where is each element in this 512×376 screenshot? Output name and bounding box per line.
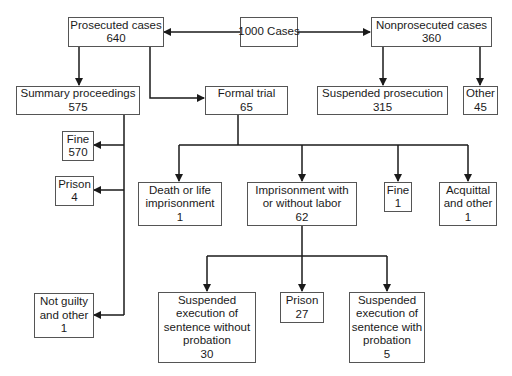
node-death-or-life: Death or life imprisonment 1 <box>138 182 222 226</box>
node-label: Prosecuted cases <box>70 19 161 33</box>
node-label: Other <box>466 87 495 101</box>
node-label: Prison <box>58 178 91 192</box>
node-formal-trial: Formal trial 65 <box>205 86 288 115</box>
node-count: 640 <box>106 32 125 46</box>
node-count: 1 <box>61 322 67 336</box>
node-count: 570 <box>68 146 87 160</box>
node-label: Suspended prosecution <box>322 87 443 101</box>
node-label: Acquittal <box>446 184 490 198</box>
node-formal-fine: Fine 1 <box>384 182 412 212</box>
node-count: 1 <box>465 211 471 225</box>
node-count: 1 <box>177 211 183 225</box>
node-label: probation <box>183 334 231 348</box>
node-label: Imprisonment with <box>255 184 348 198</box>
node-label: probation <box>363 334 411 348</box>
node-label: and other <box>40 309 89 323</box>
node-count: 360 <box>422 32 441 46</box>
node-count: 1 <box>395 197 401 211</box>
node-summary-prison: Prison 4 <box>55 176 94 206</box>
node-label: execution of <box>356 307 418 321</box>
node-label: 1000 Cases <box>238 25 299 39</box>
node-label: or without labor <box>263 197 342 211</box>
node-count: 30 <box>201 348 214 362</box>
node-count: 5 <box>384 348 390 362</box>
node-label: Summary proceedings <box>20 87 135 101</box>
node-label: Not guilty <box>40 295 88 309</box>
node-label: Death or life <box>149 184 211 198</box>
node-count: 62 <box>296 211 309 225</box>
node-count: 575 <box>68 101 87 115</box>
node-summary-proceedings: Summary proceedings 575 <box>16 86 140 115</box>
node-summary-not-guilty: Not guilty and other 1 <box>34 293 94 338</box>
node-suspended-with-probation: Suspended execution of sentence with pro… <box>349 292 425 363</box>
node-suspended-without-probation: Suspended execution of sentence without … <box>158 292 256 363</box>
node-label: Formal trial <box>218 87 276 101</box>
node-prison-27: Prison 27 <box>280 292 324 323</box>
node-suspended-prosecution: Suspended prosecution 315 <box>317 86 448 115</box>
node-count: 45 <box>474 101 487 115</box>
node-label: sentence with <box>352 321 422 335</box>
node-acquittal: Acquittal and other 1 <box>439 182 497 226</box>
node-label: Prison <box>286 294 319 308</box>
node-label: Nonprosecuted cases <box>376 19 487 33</box>
node-label: and other <box>444 197 493 211</box>
node-count: 65 <box>240 101 253 115</box>
node-label: imprisonment <box>145 197 214 211</box>
node-label: Suspended <box>178 294 236 308</box>
node-nonprosecuted-cases: Nonprosecuted cases 360 <box>371 17 492 47</box>
node-count: 4 <box>71 191 77 205</box>
node-imprisonment: Imprisonment with or without labor 62 <box>247 182 357 226</box>
node-label: execution of <box>176 307 238 321</box>
node-other: Other 45 <box>463 86 498 115</box>
node-count: 315 <box>373 101 392 115</box>
node-count: 27 <box>296 308 309 322</box>
node-label: Fine <box>387 184 409 198</box>
node-label: Suspended <box>358 294 416 308</box>
node-label: Fine <box>67 133 89 147</box>
node-label: sentence without <box>164 321 250 335</box>
node-total-cases: 1000 Cases <box>240 17 298 47</box>
node-summary-fine: Fine 570 <box>62 131 94 161</box>
node-prosecuted-cases: Prosecuted cases 640 <box>68 17 164 47</box>
